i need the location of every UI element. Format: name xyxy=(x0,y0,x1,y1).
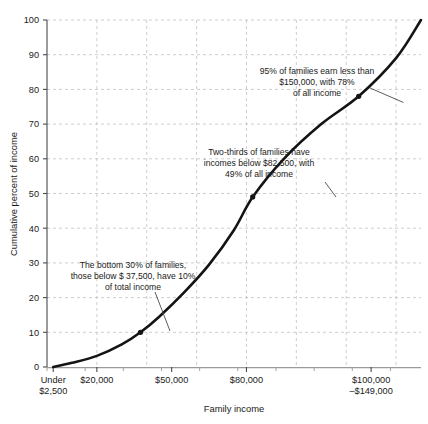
annotation-95-percent: 95% of families earn less than $150,000,… xyxy=(260,66,375,98)
x-tick-label: $80,000 xyxy=(230,375,263,385)
cumulative-income-chart: 0102030405060708090100 Under$2,500$20,00… xyxy=(0,0,428,424)
annotation-two-thirds-line-3: 49% of all income xyxy=(225,169,293,179)
annotation-bottom-30-line-2: those below $ 37,500, have 10% xyxy=(71,271,196,281)
data-point-95-percent-families xyxy=(356,94,361,99)
annotation-two-thirds-line-2: incomes below $82,500, with xyxy=(204,158,315,168)
annotation-two-thirds: Two-thirds of families have incomes belo… xyxy=(204,147,315,179)
annotation-two-thirds-line-1: Two-thirds of families have xyxy=(208,147,310,157)
annotation-95-percent-line-1: 95% of families earn less than xyxy=(260,66,375,76)
annotation-95-percent-line-3: of all income xyxy=(293,88,341,98)
data-point-markers xyxy=(138,94,361,335)
data-point-two-thirds-families xyxy=(250,194,255,199)
x-axis-title: Family income xyxy=(204,403,264,414)
y-tick-label: 100 xyxy=(24,15,39,25)
x-tick-label: $50,000 xyxy=(155,375,188,385)
x-tick-label: Under xyxy=(41,375,66,385)
y-tick-label: 70 xyxy=(29,119,39,129)
y-tick-label: 90 xyxy=(29,50,39,60)
y-tick-label: 50 xyxy=(29,189,39,199)
annotation-bottom-30-line-1: The bottom 30% of families, xyxy=(80,260,187,270)
y-tick-label: 0 xyxy=(34,362,39,372)
x-tick-label-secondary: –$149,000 xyxy=(349,386,392,396)
y-axis-title: Cumulative percent of income xyxy=(8,132,19,256)
data-point-bottom-30-percent xyxy=(138,330,143,335)
x-tick-label: $100,000 xyxy=(352,375,390,385)
leader-line-95-percent xyxy=(370,88,404,103)
y-tick-label: 80 xyxy=(29,85,39,95)
chart-svg: 0102030405060708090100 Under$2,500$20,00… xyxy=(0,0,428,424)
y-tick-label: 40 xyxy=(29,224,39,234)
y-axis-ticks xyxy=(43,20,47,367)
y-tick-label: 60 xyxy=(29,154,39,164)
y-tick-label: 30 xyxy=(29,258,39,268)
leader-line-two-thirds xyxy=(325,182,336,197)
y-tick-label: 20 xyxy=(29,293,39,303)
x-tick-label: $20,000 xyxy=(80,375,113,385)
annotation-95-percent-line-2: $150,000, with 78% xyxy=(279,77,355,87)
y-tick-label: 10 xyxy=(29,328,39,338)
x-tick-label-secondary: $2,500 xyxy=(39,386,67,396)
y-axis-tick-labels: 0102030405060708090100 xyxy=(24,15,39,372)
annotation-bottom-30-line-3: of total income xyxy=(105,282,161,292)
annotation-bottom-30: The bottom 30% of families, those below … xyxy=(71,260,196,292)
x-axis-tick-labels: Under$2,500$20,000$50,000$80,000$100,000… xyxy=(39,375,393,396)
